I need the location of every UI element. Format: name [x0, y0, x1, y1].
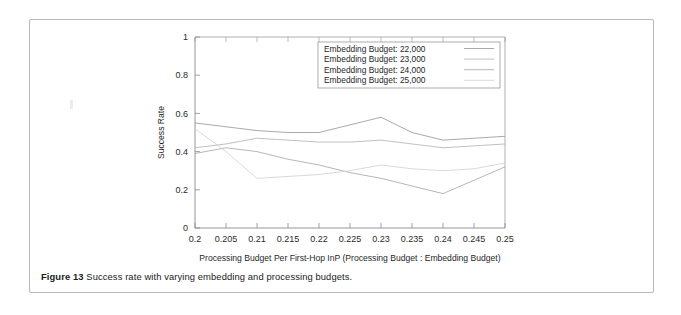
success-rate-line-chart: 00.20.40.60.810.20.2050.210.2150.220.225…	[30, 20, 655, 265]
chart-series	[195, 117, 505, 193]
figure-caption-text: Success rate with varying embedding and …	[86, 271, 352, 282]
x-tick-label: 0.22	[310, 234, 328, 244]
legend-label-3: Embedding Budget: 24,000	[324, 65, 426, 75]
y-tick-label: 0.2	[175, 185, 188, 195]
scan-artifacts	[70, 100, 73, 109]
x-tick-label: 0.25	[496, 234, 514, 244]
series-line-4	[195, 129, 505, 179]
y-axis-title: Success Rate	[156, 106, 166, 159]
y-tick-label: 0.4	[175, 147, 188, 157]
x-tick-label: 0.225	[339, 234, 362, 244]
figure-caption-label: Figure 13	[41, 271, 84, 282]
x-tick-label: 0.2	[189, 234, 202, 244]
x-tick-label: 0.235	[401, 234, 424, 244]
series-line-1	[195, 117, 505, 140]
x-tick-label: 0.23	[372, 234, 390, 244]
legend-label-1: Embedding Budget: 22,000	[324, 44, 426, 54]
series-line-2	[195, 138, 505, 148]
chart-legend: Embedding Budget: 22,000Embedding Budget…	[318, 42, 500, 88]
x-tick-label: 0.205	[215, 234, 238, 244]
x-tick-label: 0.24	[434, 234, 452, 244]
x-axis-title: Processing Budget Per First-Hop InP (Pro…	[199, 253, 500, 263]
y-tick-label: 0.6	[175, 109, 188, 119]
x-tick-label: 0.245	[463, 234, 486, 244]
x-tick-label: 0.21	[248, 234, 266, 244]
y-tick-label: 1	[183, 32, 188, 42]
figure-container: 00.20.40.60.810.20.2050.210.2150.220.225…	[29, 19, 654, 293]
y-tick-label: 0	[183, 223, 188, 233]
document-page: 00.20.40.60.810.20.2050.210.2150.220.225…	[0, 0, 681, 315]
chart-canvas: 00.20.40.60.810.20.2050.210.2150.220.225…	[30, 20, 655, 265]
figure-caption: Figure 13 Success rate with varying embe…	[41, 271, 641, 282]
x-tick-label: 0.215	[277, 234, 300, 244]
legend-label-2: Embedding Budget: 23,000	[324, 54, 426, 64]
y-tick-label: 0.8	[175, 70, 188, 80]
legend-label-4: Embedding Budget: 25,000	[324, 75, 426, 85]
